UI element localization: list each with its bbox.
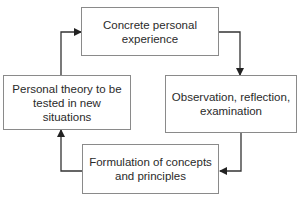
node-label: Personal theory to be tested in new situ… <box>8 82 126 124</box>
node-label: Formulation of concepts and principles <box>87 155 214 183</box>
node-observation-reflection: Observation, reflection, examination <box>165 75 297 133</box>
node-personal-theory: Personal theory to be tested in new situ… <box>3 75 131 130</box>
arrow-top-to-right <box>219 32 240 75</box>
node-formulation-concepts: Formulation of concepts and principles <box>82 144 219 194</box>
node-label: Observation, reflection, examination <box>170 90 292 118</box>
arrow-left-to-top <box>61 32 81 75</box>
node-concrete-experience: Concrete personal experience <box>81 7 219 56</box>
node-label: Concrete personal experience <box>86 18 214 46</box>
arrow-right-to-bottom <box>220 133 241 171</box>
arrow-bottom-to-left <box>61 130 82 171</box>
